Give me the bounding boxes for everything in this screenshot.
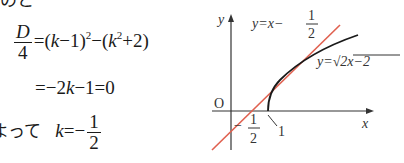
numerator: D <box>14 22 32 42</box>
y-intercept-sign: − <box>234 118 242 133</box>
y-intercept-num: 1 <box>250 112 257 127</box>
y-intercept-den: 2 <box>250 131 257 146</box>
line-label-den: 2 <box>308 26 315 41</box>
y-axis-arrow-icon <box>228 14 234 22</box>
line-label: y=x− <box>250 16 283 31</box>
line-label-num: 1 <box>308 8 315 23</box>
x-intercept-label: 1 <box>278 124 285 139</box>
denominator: 2 <box>87 133 101 153</box>
equation-line-1: D 4 =(k−1)2−(k2+2) <box>12 22 149 63</box>
top-cut-text: のと <box>0 0 34 9</box>
equation-line-2: =−2k−1=0 <box>35 78 115 97</box>
sqrt-curve <box>268 35 358 111</box>
curve-label: y=√2x−2 <box>315 54 370 69</box>
numerator: 1 <box>87 112 101 132</box>
leader-line <box>268 115 277 126</box>
equation-line-3: よって k=− 1 2 <box>0 112 103 153</box>
fraction-one-half: 1 2 <box>87 112 101 153</box>
origin-label: O <box>214 96 224 111</box>
x-axis-arrow-icon <box>366 108 374 114</box>
equation-rhs: =(k−1)2−(k2+2) <box>34 30 149 51</box>
denominator: 4 <box>14 43 32 63</box>
x-axis-label: x <box>361 116 369 131</box>
graph: y O x 1 − 1 2 y=x− 1 2 y=√2x−2 <box>210 0 404 163</box>
y-axis-label: y <box>216 12 225 27</box>
yotte-text: よって <box>0 121 41 141</box>
fraction-d-over-4: D 4 <box>14 22 32 63</box>
